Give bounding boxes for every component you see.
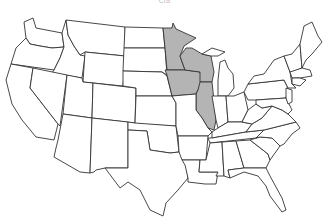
state-new-jersey bbox=[286, 88, 292, 104]
state-new-mexico bbox=[90, 118, 128, 173]
state-michigan bbox=[218, 60, 234, 96]
state-maine bbox=[300, 22, 322, 68]
state-arkansas bbox=[178, 136, 208, 160]
state-connecticut-ri bbox=[292, 78, 306, 86]
state-colorado bbox=[92, 83, 136, 123]
state-wyoming bbox=[83, 52, 125, 86]
state-michigan-up bbox=[202, 48, 225, 56]
us-map bbox=[0, 0, 329, 222]
state-florida bbox=[228, 168, 286, 212]
state-kansas bbox=[135, 96, 176, 126]
state-north-dakota bbox=[124, 27, 165, 48]
